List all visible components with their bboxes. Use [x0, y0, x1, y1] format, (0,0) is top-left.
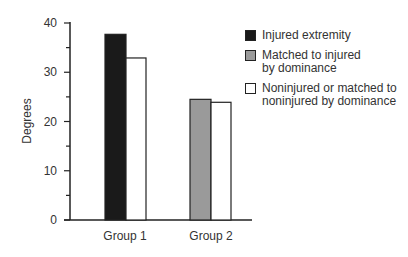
legend: Injured extremity Matched to injured by …	[245, 29, 408, 115]
x-tick-label-group-1: Group 1	[103, 229, 147, 243]
y-axis-label: Degrees	[20, 98, 34, 143]
legend-item-noninjured: Noninjured or matched to noninjured by d…	[245, 82, 408, 108]
bar	[211, 102, 231, 220]
legend-label: Matched to injured by dominance	[262, 49, 372, 75]
legend-item-matched-injured: Matched to injured by dominance	[245, 49, 408, 75]
legend-swatch-white	[245, 83, 256, 94]
legend-label: Noninjured or matched to noninjured by d…	[262, 82, 407, 108]
y-tick-label: 10	[44, 164, 58, 178]
legend-swatch-gray	[245, 50, 256, 61]
bar	[190, 99, 211, 220]
bars	[105, 34, 231, 220]
y-tick-label: 30	[44, 65, 58, 79]
legend-label: Injured extremity	[262, 29, 408, 42]
y-ticks: 010203040	[44, 16, 70, 227]
y-tick-label: 40	[44, 16, 58, 30]
y-tick-label: 0	[50, 213, 57, 227]
legend-item-injured: Injured extremity	[245, 29, 408, 42]
x-tick-label-group-2: Group 2	[189, 229, 233, 243]
y-tick-label: 20	[44, 115, 58, 129]
bar	[126, 58, 146, 220]
bar	[105, 34, 126, 220]
legend-swatch-black	[245, 30, 256, 41]
